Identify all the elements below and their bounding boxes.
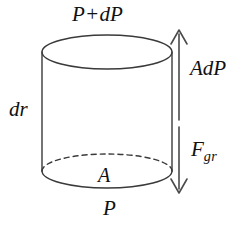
cylinder-diagram-canvas [0, 0, 246, 225]
top-pressure-label: P+dP [72, 4, 123, 25]
bottom-pressure-label: P [103, 198, 116, 219]
hydrostatic-cylinder-figure: P+dP P A dr AdP Fgr [0, 0, 246, 225]
force-up-label-base: A [190, 56, 203, 80]
force-up-label-rest: dP [203, 56, 226, 80]
force-down-label: Fgr [191, 139, 217, 163]
cross-section-area-label: A [98, 165, 110, 185]
cylinder-top-face [42, 35, 172, 69]
thickness-label: dr [9, 99, 28, 120]
force-down-label-base: F [191, 137, 204, 161]
force-up-label: AdP [190, 58, 226, 79]
force-down-label-subscript: gr [204, 148, 217, 164]
